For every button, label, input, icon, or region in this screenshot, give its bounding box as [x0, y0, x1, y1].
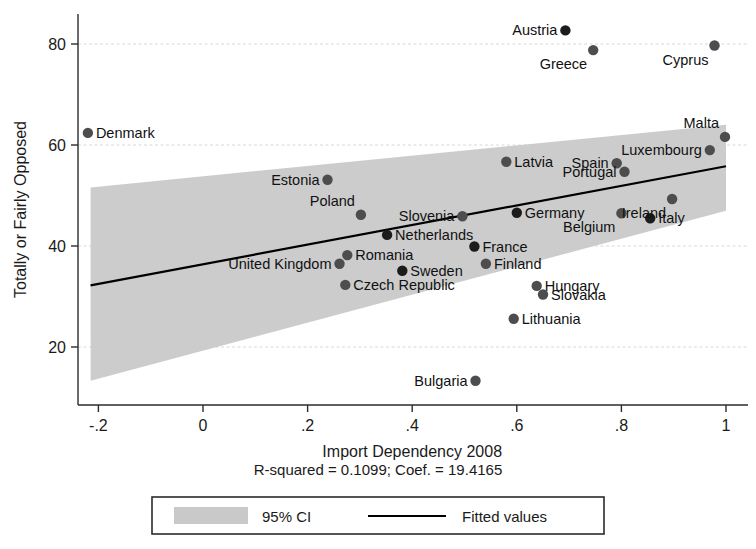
data-point-label: Latvia: [514, 154, 554, 170]
scatter-chart-figure: 20406080-.20.2.4.6.81Import Dependency 2…: [0, 0, 756, 549]
data-point[interactable]: [342, 250, 352, 260]
data-point[interactable]: [356, 210, 366, 220]
x-tick-label: -.2: [89, 417, 108, 434]
legend: 95% CIFitted values: [152, 497, 604, 534]
x-tick-label: .2: [301, 417, 314, 434]
data-point[interactable]: [512, 208, 522, 218]
data-point[interactable]: [509, 314, 519, 324]
x-tick-label: .8: [615, 417, 628, 434]
data-point-label: Belgium: [563, 219, 615, 235]
data-point[interactable]: [705, 145, 715, 155]
x-tick-label: 0: [199, 417, 208, 434]
data-point[interactable]: [538, 289, 548, 299]
y-tick-label: 40: [48, 238, 66, 255]
data-point[interactable]: [532, 281, 542, 291]
legend-ci-label: 95% CI: [262, 508, 311, 525]
legend-fit-label: Fitted values: [462, 508, 547, 525]
x-tick-label: 1: [722, 417, 731, 434]
data-point-label: Cyprus: [663, 52, 709, 68]
y-tick-label: 80: [48, 36, 66, 53]
data-point[interactable]: [457, 211, 467, 221]
data-point[interactable]: [334, 259, 344, 269]
data-point[interactable]: [83, 128, 93, 138]
data-point[interactable]: [397, 266, 407, 276]
data-point-label: Austria: [512, 22, 558, 38]
regression-stats-annotation: R-squared = 0.1099; Coef. = 19.4165: [254, 461, 503, 478]
data-point-label: Ireland: [622, 205, 666, 221]
x-tick-label: .4: [406, 417, 419, 434]
data-point-label: Denmark: [96, 125, 156, 141]
y-tick-label: 60: [48, 137, 66, 154]
data-point-label: Poland: [310, 193, 355, 209]
y-axis-ticks: 20406080: [48, 36, 78, 356]
data-point[interactable]: [588, 45, 598, 55]
plot-area: 20406080-.20.2.4.6.81Import Dependency 2…: [0, 0, 756, 549]
data-point-label: United Kingdom: [228, 256, 331, 272]
data-point[interactable]: [470, 376, 480, 386]
data-point-label: Slovenia: [399, 208, 456, 224]
data-point-label: Greece: [540, 56, 588, 72]
data-point[interactable]: [619, 167, 629, 177]
y-axis-title: Totally or Fairly Opposed: [12, 121, 29, 298]
data-point-label: France: [482, 239, 527, 255]
data-point[interactable]: [481, 259, 491, 269]
x-tick-label: .6: [510, 417, 523, 434]
data-point[interactable]: [340, 280, 350, 290]
data-point-label: Portugal: [562, 164, 616, 180]
data-point-label: Lithuania: [522, 311, 582, 327]
data-point[interactable]: [720, 132, 730, 142]
data-point-label: Luxembourg: [621, 142, 702, 158]
x-axis-title: Import Dependency 2008: [322, 443, 502, 460]
data-point-label: Slovakia: [551, 287, 607, 303]
data-point-label: Czech Republic: [353, 277, 455, 293]
x-axis-ticks: -.20.2.4.6.81: [89, 405, 730, 434]
data-point-label: Malta: [684, 115, 720, 131]
data-point-label: Bulgaria: [414, 373, 468, 389]
y-tick-label: 20: [48, 339, 66, 356]
data-point[interactable]: [469, 241, 479, 251]
data-point[interactable]: [382, 230, 392, 240]
data-point[interactable]: [501, 157, 511, 167]
data-point-label: Romania: [355, 247, 414, 263]
data-point-label: Sweden: [410, 263, 462, 279]
data-point-label: Estonia: [271, 172, 320, 188]
data-point[interactable]: [322, 175, 332, 185]
data-point-label: Netherlands: [395, 227, 473, 243]
data-point[interactable]: [667, 194, 677, 204]
legend-ci-swatch: [174, 507, 248, 524]
data-point[interactable]: [709, 40, 719, 50]
data-point[interactable]: [560, 25, 570, 35]
data-point-label: Finland: [494, 256, 542, 272]
